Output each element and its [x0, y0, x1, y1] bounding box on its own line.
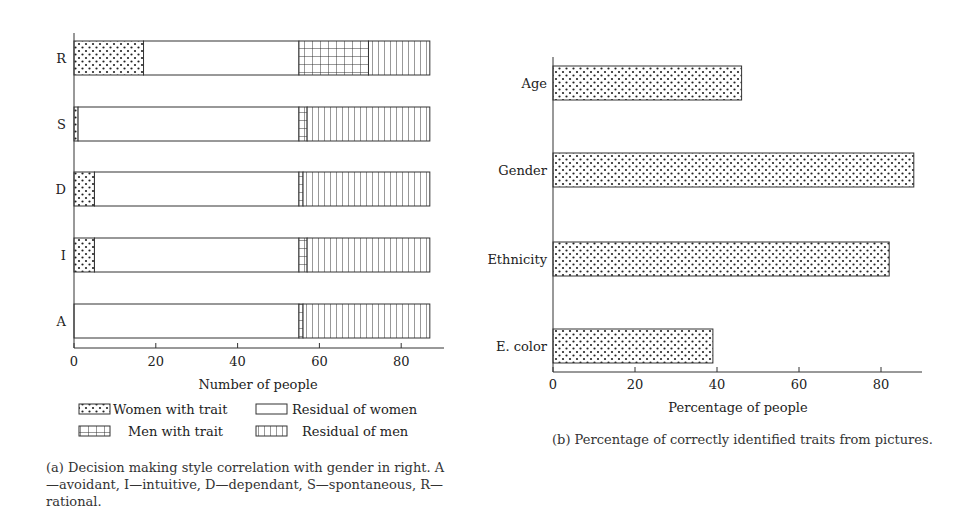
bar-ethnicity — [553, 242, 889, 276]
y-tick-label: E. color — [496, 339, 548, 354]
chart-decision-style: AIDSR020406080Number of people Women wit… — [0, 0, 470, 440]
bar-segment — [74, 172, 94, 206]
y-tick-label: Gender — [498, 163, 547, 178]
bar-row-D — [74, 172, 430, 206]
bar-gender — [553, 153, 914, 187]
x-tick-label: 40 — [709, 377, 726, 392]
bar-segment — [299, 41, 369, 75]
x-tick-label: 80 — [873, 377, 890, 392]
bar-segment — [94, 172, 299, 206]
caption-figure-b: (b) Percentage of correctly identified t… — [552, 431, 968, 448]
bar-segment — [299, 172, 303, 206]
bar-segment — [307, 238, 430, 272]
legend-item: Women with trait — [79, 402, 228, 417]
y-tick-label: Age — [521, 76, 548, 91]
y-tick-label: A — [56, 314, 67, 329]
bar-segment — [144, 41, 299, 75]
x-axis-label: Percentage of people — [668, 400, 808, 415]
x-tick-label: 80 — [393, 354, 410, 369]
y-tick-label: R — [56, 51, 67, 66]
legend-label: Men with trait — [128, 424, 224, 439]
bar-segment — [74, 41, 144, 75]
bar-segment — [299, 304, 303, 338]
chart-trait-identification: E. colorEthnicityGenderAge020406080Perce… — [470, 0, 968, 440]
bar-segment — [307, 107, 430, 141]
legend-swatch — [256, 404, 287, 414]
bar-row-A — [74, 304, 430, 338]
x-tick-label: 40 — [229, 354, 246, 369]
legend-swatch — [79, 426, 110, 436]
y-tick-label: D — [56, 182, 66, 197]
bar-segment — [303, 172, 430, 206]
bar-e-color — [553, 329, 713, 363]
bar-row-R — [74, 41, 430, 75]
bar-segment — [299, 107, 307, 141]
bar-segment — [74, 238, 94, 272]
caption-figure-a: (a) Decision making style correlation wi… — [46, 459, 446, 510]
legend-label: Residual of women — [292, 402, 418, 417]
bar-segment — [299, 238, 307, 272]
bar-row-I — [74, 238, 430, 272]
bar-segment — [94, 238, 299, 272]
y-tick-label: Ethnicity — [487, 252, 547, 267]
x-tick-label: 0 — [70, 354, 78, 369]
bar-segment — [78, 107, 299, 141]
legend-item: Men with trait — [79, 424, 224, 439]
x-tick-label: 0 — [549, 377, 557, 392]
x-axis-label: Number of people — [198, 377, 318, 392]
legend-swatch — [79, 404, 110, 414]
bar-age — [553, 66, 742, 100]
bar-segment — [74, 304, 299, 338]
legend-item: Residual of women — [256, 402, 418, 417]
legend-label: Residual of men — [302, 424, 409, 439]
bar-segment — [368, 41, 429, 75]
legend-swatch — [256, 426, 287, 436]
bar-row-S — [74, 107, 430, 141]
bar-segment — [74, 107, 78, 141]
bar-segment — [303, 304, 430, 338]
y-tick-label: S — [57, 117, 66, 132]
x-tick-label: 60 — [311, 354, 328, 369]
y-tick-label: I — [61, 248, 66, 263]
x-tick-label: 20 — [627, 377, 644, 392]
legend-item: Residual of men — [256, 424, 409, 439]
legend-label: Women with trait — [113, 402, 228, 417]
x-tick-label: 20 — [148, 354, 165, 369]
x-tick-label: 60 — [791, 377, 808, 392]
